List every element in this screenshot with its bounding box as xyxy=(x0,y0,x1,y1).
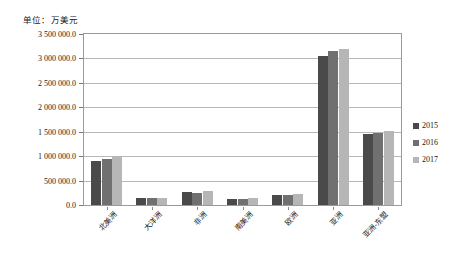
bar-2015 xyxy=(272,195,282,205)
bar-2017 xyxy=(248,198,258,205)
bar-2016 xyxy=(238,199,248,205)
bar-2016 xyxy=(102,159,112,205)
y-axis-tick-label: 0.0 xyxy=(66,201,76,210)
x-axis: 北美洲大洋洲非洲南美洲欧洲亚洲亚洲-东盟 xyxy=(84,207,401,262)
bar-2017 xyxy=(384,131,394,205)
x-axis-tick-label: 非洲 xyxy=(191,209,209,227)
legend-item[interactable]: 2015 xyxy=(413,117,461,134)
bar-2016 xyxy=(328,51,338,205)
bar-2016 xyxy=(373,133,383,205)
bar-2017 xyxy=(157,198,167,205)
legend-item[interactable]: 2016 xyxy=(413,134,461,151)
bar-group xyxy=(182,34,213,205)
x-axis-tick-label: 北美洲 xyxy=(95,209,118,232)
legend-swatch-icon xyxy=(413,140,419,146)
y-axis-tick-label: 2 000 000.0 xyxy=(38,103,76,112)
chart-legend: 201520162017 xyxy=(413,117,461,168)
y-axis: 3 500 000.03 000 000.02 500 000.02 000 0… xyxy=(0,0,83,262)
bar-2015 xyxy=(318,56,328,205)
legend-label: 2016 xyxy=(422,139,438,147)
bar-2015 xyxy=(136,198,146,205)
bar-2017 xyxy=(293,194,303,205)
x-axis-tick-mark xyxy=(197,207,198,210)
bar-group xyxy=(318,34,349,205)
x-axis-tick-label: 大洋洲 xyxy=(141,209,164,232)
bar-2015 xyxy=(182,192,192,205)
chart-container: 单位：万美元 3 500 000.03 000 000.02 500 000.0… xyxy=(0,0,464,262)
legend-label: 2015 xyxy=(422,122,438,130)
bar-2015 xyxy=(227,199,237,205)
bar-2016 xyxy=(192,193,202,205)
x-axis-tick-mark xyxy=(288,207,289,210)
bar-2015 xyxy=(363,134,373,205)
legend-swatch-icon xyxy=(413,123,419,129)
y-axis-tick-label: 1 500 000.0 xyxy=(38,127,76,136)
x-axis-tick-mark xyxy=(378,207,379,210)
x-axis-tick-mark xyxy=(243,207,244,210)
legend-swatch-icon xyxy=(413,157,419,163)
x-axis-tick-mark xyxy=(333,207,334,210)
y-axis-tick-label: 3 500 000.0 xyxy=(38,30,76,39)
bar-group xyxy=(91,34,122,205)
y-axis-tick-label: 500 000.0 xyxy=(44,176,76,185)
y-axis-tick-label: 2 500 000.0 xyxy=(38,78,76,87)
bar-2017 xyxy=(339,49,349,205)
x-axis-tick-label: 亚洲-东盟 xyxy=(360,209,390,239)
bars-layer xyxy=(84,34,401,205)
bar-group xyxy=(363,34,394,205)
legend-label: 2017 xyxy=(422,156,438,164)
x-axis-tick-label: 欧洲 xyxy=(282,209,300,227)
bar-group xyxy=(227,34,258,205)
bar-group xyxy=(272,34,303,205)
bar-2016 xyxy=(147,198,157,205)
bar-2017 xyxy=(203,191,213,205)
bar-2016 xyxy=(283,195,293,205)
bar-2017 xyxy=(112,156,122,205)
bar-2015 xyxy=(91,161,101,205)
bar-group xyxy=(136,34,167,205)
y-axis-tick-label: 1 000 000.0 xyxy=(38,152,76,161)
legend-item[interactable]: 2017 xyxy=(413,151,461,168)
x-axis-tick-label: 亚洲 xyxy=(327,209,345,227)
x-axis-tick-label: 南美洲 xyxy=(231,209,254,232)
x-axis-tick-mark xyxy=(152,207,153,210)
x-axis-tick-mark xyxy=(107,207,108,210)
y-axis-tick-label: 3 000 000.0 xyxy=(38,54,76,63)
